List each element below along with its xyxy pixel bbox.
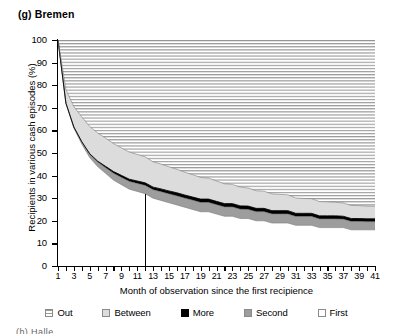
x-tick-2 — [66, 266, 67, 271]
x-tick-6 — [98, 266, 99, 271]
y-tick-100 — [52, 40, 58, 41]
x-tick-34 — [320, 266, 321, 271]
legend-label-more: More — [193, 308, 214, 318]
y-tick-50 — [52, 153, 58, 154]
x-tick-28 — [272, 266, 273, 271]
legend-item-between[interactable]: Between — [102, 308, 150, 318]
x-tick-14 — [161, 266, 162, 271]
y-tick-20 — [52, 221, 58, 222]
x-axis-title: Month of observation since the first rec… — [58, 285, 375, 296]
legend-label-between: Between — [114, 308, 150, 318]
legend-item-first[interactable]: First — [318, 308, 348, 318]
y-tick-10 — [52, 243, 58, 244]
legend-label-first: First — [330, 308, 348, 318]
stacked-area-chart — [58, 40, 375, 266]
legend-item-second[interactable]: Second — [244, 308, 288, 318]
x-tick-24 — [240, 266, 241, 271]
y-axis-title: Recipients in various cash episodes (%) — [26, 33, 37, 263]
area-series-group — [58, 40, 375, 266]
x-tick-36 — [335, 266, 336, 271]
y-tick-70 — [52, 108, 58, 109]
next-figure-partial-label: (h) Halle — [16, 327, 54, 334]
plot-area — [58, 40, 375, 266]
legend-item-out[interactable]: Out — [45, 308, 72, 318]
first-swatch — [318, 309, 326, 317]
figure-panel: (g) Bremen 0102030405060708090100 135791… — [0, 0, 393, 336]
x-tick-18 — [193, 266, 194, 271]
x-tick-32 — [304, 266, 305, 271]
more-swatch — [181, 309, 189, 317]
between-swatch — [102, 309, 110, 317]
x-tick-label-41: 41 — [365, 272, 385, 281]
x-tick-38 — [351, 266, 352, 271]
x-tick-20 — [209, 266, 210, 271]
legend-label-out: Out — [57, 308, 72, 318]
y-tick-30 — [52, 198, 58, 199]
x-tick-26 — [256, 266, 257, 271]
out-swatch — [45, 309, 53, 317]
y-tick-40 — [52, 176, 58, 177]
y-tick-90 — [52, 63, 58, 64]
x-tick-12 — [145, 266, 146, 271]
x-tick-8 — [113, 266, 114, 271]
x-tick-10 — [129, 266, 130, 271]
x-tick-4 — [82, 266, 83, 271]
page-title: (g) Bremen — [18, 8, 74, 20]
chart-legend: OutBetweenMoreSecondFirst — [0, 305, 393, 321]
legend-label-second: Second — [256, 308, 288, 318]
x-tick-40 — [367, 266, 368, 271]
y-tick-80 — [52, 85, 58, 86]
y-tick-60 — [52, 130, 58, 131]
legend-item-more[interactable]: More — [181, 308, 214, 318]
second-swatch — [244, 309, 252, 317]
x-tick-30 — [288, 266, 289, 271]
x-tick-16 — [177, 266, 178, 271]
reference-line-month-12 — [145, 194, 146, 266]
x-tick-22 — [224, 266, 225, 271]
